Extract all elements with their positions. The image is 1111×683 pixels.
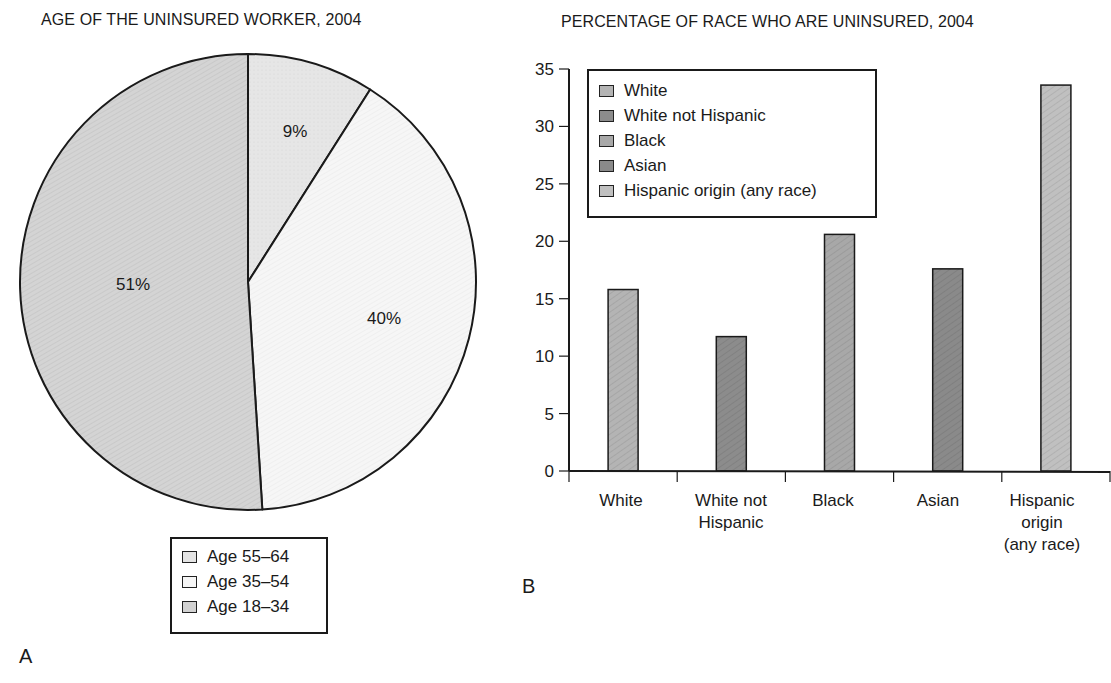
- legend-swatch: [182, 551, 197, 563]
- x-axis: [569, 471, 1110, 482]
- bar-legend: White White not Hispanic Black Asian His…: [587, 69, 877, 218]
- legend-swatch: [599, 160, 614, 172]
- legend-label: Age 55–64: [207, 547, 289, 567]
- legend-item-age-18-34: Age 18–34: [182, 594, 326, 619]
- y-tick-label: 30: [535, 117, 554, 136]
- pie-chart: 9% 40% 51%: [0, 0, 500, 530]
- y-tick-label: 5: [545, 405, 554, 424]
- y-tick-label: 15: [535, 290, 554, 309]
- legend-item-black: Black: [599, 128, 875, 153]
- legend-label: Age 18–34: [207, 597, 289, 617]
- panel-letter-a: A: [19, 645, 32, 668]
- y-tick-label: 10: [535, 347, 554, 366]
- legend-item-age-35-54: Age 35–54: [182, 569, 326, 594]
- legend-label: Age 35–54: [207, 572, 289, 592]
- legend-item-white-not-hispanic: White not Hispanic: [599, 103, 875, 128]
- legend-label: Hispanic origin (any race): [624, 181, 817, 201]
- y-axis: 05101520253035: [535, 60, 569, 481]
- x-label-black: Black: [781, 490, 885, 512]
- legend-swatch: [599, 185, 614, 197]
- legend-swatch: [182, 601, 197, 613]
- legend-item-age-55-64: Age 55–64: [182, 544, 326, 569]
- legend-item-white: White: [599, 78, 875, 103]
- legend-item-hispanic: Hispanic origin (any race): [599, 178, 875, 203]
- x-label-hispanic: Hispanic origin (any race): [982, 490, 1102, 556]
- y-tick-label: 0: [545, 462, 554, 481]
- legend-swatch: [599, 135, 614, 147]
- legend-label: Asian: [624, 156, 667, 176]
- legend-label: White: [624, 81, 667, 101]
- x-label-white: White: [569, 490, 673, 512]
- y-tick-label: 20: [535, 232, 554, 251]
- x-label-asian: Asian: [886, 490, 990, 512]
- pie-legend: Age 55–64 Age 35–54 Age 18–34: [170, 537, 328, 634]
- legend-label: Black: [624, 131, 666, 151]
- slice-label-35-54: 40%: [367, 309, 401, 328]
- slice-label-55-64: 9%: [283, 122, 308, 141]
- legend-swatch: [182, 576, 197, 588]
- bar-chart-title: PERCENTAGE OF RACE WHO ARE UNINSURED, 20…: [561, 13, 974, 31]
- x-label-white-not-hispanic: White not Hispanic: [672, 490, 790, 534]
- y-tick-label: 35: [535, 60, 554, 79]
- legend-item-asian: Asian: [599, 153, 875, 178]
- panel-letter-b: B: [522, 575, 535, 598]
- pie-slices: [20, 54, 476, 510]
- slice-label-18-34: 51%: [116, 275, 150, 294]
- legend-swatch: [599, 110, 614, 122]
- legend-swatch: [599, 85, 614, 97]
- legend-label: White not Hispanic: [624, 106, 766, 126]
- y-tick-label: 25: [535, 175, 554, 194]
